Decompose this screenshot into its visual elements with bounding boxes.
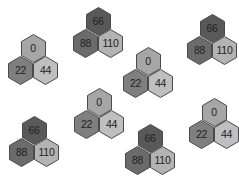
hexagon-value: 88 [125,146,150,175]
hexagon-value: 88 [187,36,212,65]
hexagon-bottom-left: 22 [123,69,148,98]
hexagon-value: 22 [123,69,148,98]
hexagon-value: 22 [189,120,214,149]
hexagon-value: 44 [33,56,58,85]
hexagon-value: 110 [34,138,59,167]
hexagon-bottom-left: 88 [187,36,212,65]
hexagon-value: 110 [98,29,123,58]
hexagon-bottom-right: 110 [34,138,59,167]
hexagon-bottom-left: 22 [189,120,214,149]
hexagon-bottom-left: 22 [74,110,99,139]
hexagon-bottom-right: 44 [33,56,58,85]
hexagon-value: 44 [99,110,124,139]
hexagon-value: 44 [148,69,173,98]
hexagon-cluster: 0 22 44 [74,88,124,144]
hexagon-cluster: 66 88 110 [9,116,59,172]
hexagon-value: 88 [9,138,34,167]
hexagon-cluster: 66 88 110 [73,7,123,63]
hexagon-value: 88 [73,29,98,58]
hexagon-bottom-right: 110 [98,29,123,58]
hexagon-cluster: 66 88 110 [187,14,237,70]
hexagon-cluster: 0 22 44 [123,47,173,103]
hexagon-bottom-right: 44 [148,69,173,98]
hexagon-value: 22 [74,110,99,139]
hexagon-cluster: 0 22 44 [189,98,239,154]
hexagon-bottom-left: 22 [8,56,33,85]
hexagon-bottom-right: 44 [99,110,124,139]
hexagon-value: 44 [214,120,239,149]
hexagon-cluster: 0 22 44 [8,34,58,90]
hexagon-bottom-left: 88 [9,138,34,167]
hexagon-value: 22 [8,56,33,85]
hexagon-bottom-left: 88 [125,146,150,175]
hexagon-value: 110 [150,146,175,175]
hexagon-bottom-right: 110 [212,36,237,65]
hexagon-bottom-right: 44 [214,120,239,149]
hexagon-bottom-right: 110 [150,146,175,175]
hexagon-bottom-left: 88 [73,29,98,58]
hexagon-cluster: 66 88 110 [125,124,175,179]
hexagon-value: 110 [212,36,237,65]
